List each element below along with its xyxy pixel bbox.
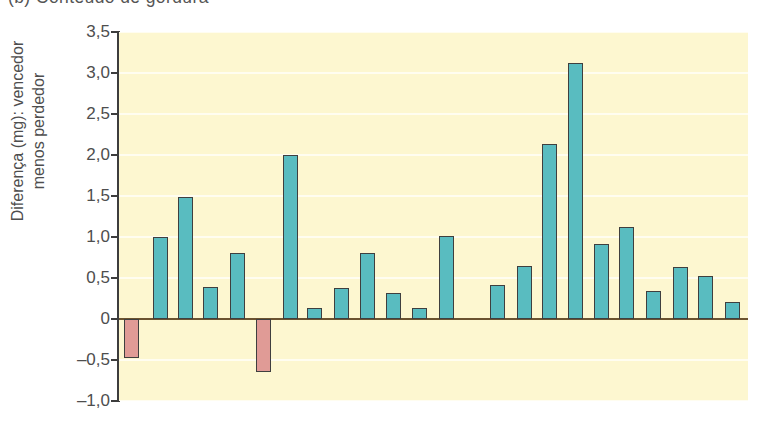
bar xyxy=(673,267,688,319)
bar xyxy=(646,291,661,319)
bar xyxy=(334,288,349,319)
gridline xyxy=(119,277,748,279)
y-tick-label-group: 3,53,02,52,01,51,00,50–0,5–1,0 xyxy=(48,0,110,425)
bar xyxy=(594,244,609,319)
y-tick-label: 3,0 xyxy=(86,63,110,83)
bar xyxy=(517,266,532,319)
y-tick-label: 2,0 xyxy=(86,145,110,165)
bar xyxy=(439,236,454,319)
y-tick-label: 2,5 xyxy=(86,104,110,124)
bar xyxy=(568,63,583,319)
plot-area xyxy=(119,32,748,401)
gridline xyxy=(119,72,748,74)
bar xyxy=(725,302,740,319)
gridline xyxy=(119,195,748,197)
bar xyxy=(490,285,505,319)
gridline xyxy=(119,236,748,238)
bar xyxy=(178,197,193,319)
gridline xyxy=(119,359,748,361)
bar xyxy=(153,237,168,319)
bar xyxy=(698,276,713,319)
bar xyxy=(360,253,375,319)
bar xyxy=(412,308,427,319)
bar xyxy=(542,144,557,319)
y-tick-label: –0,5 xyxy=(77,350,110,370)
bar xyxy=(203,287,218,319)
bar xyxy=(283,155,298,319)
y-tick-label: 1,5 xyxy=(86,186,110,206)
y-axis-title: Diferença (mg): vencedor menos perdedor xyxy=(7,11,49,251)
bar xyxy=(230,253,245,319)
bar xyxy=(619,227,634,319)
bar xyxy=(256,319,271,372)
y-tick-label: 0 xyxy=(101,309,110,329)
y-tick-label: 3,5 xyxy=(86,22,110,42)
bar xyxy=(124,319,139,358)
gridline xyxy=(119,32,748,33)
y-tick-label: –1,0 xyxy=(77,391,110,411)
y-tick-label: 0,5 xyxy=(86,268,110,288)
bar xyxy=(307,308,322,319)
y-tick-label: 1,0 xyxy=(86,227,110,247)
gridline xyxy=(119,113,748,115)
gridline xyxy=(119,154,748,156)
bar xyxy=(386,293,401,319)
gridline xyxy=(119,400,748,401)
